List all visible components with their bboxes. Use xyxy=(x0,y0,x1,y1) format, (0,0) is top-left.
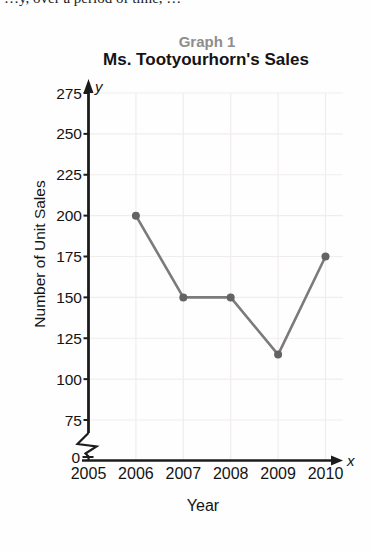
worksheet-page: …y, over a period of time, … Graph 1 Ms.… xyxy=(0,0,371,552)
x-tick-label: 2007 xyxy=(166,465,202,482)
data-point xyxy=(274,351,282,359)
y-tick-label: 250 xyxy=(56,125,82,142)
data-point xyxy=(132,212,140,220)
x-tick-label: 2008 xyxy=(213,465,249,482)
line-chart: 0751001251501752002252502752005200620072… xyxy=(0,0,371,552)
data-point xyxy=(227,293,235,301)
y-tick-label: 200 xyxy=(56,207,82,224)
x-axis-arrowhead xyxy=(331,456,343,466)
y-tick-label: 0 xyxy=(71,449,80,466)
x-axis-letter: x xyxy=(346,452,355,469)
y-tick-label: 225 xyxy=(56,166,82,183)
y-tick-label: 75 xyxy=(65,412,82,429)
y-tick-label: 150 xyxy=(56,289,82,306)
x-tick-label: 2010 xyxy=(308,465,344,482)
data-point xyxy=(179,293,187,301)
x-tick-label: 2005 xyxy=(71,465,107,482)
x-tick-label: 2009 xyxy=(260,465,296,482)
data-point xyxy=(322,253,330,261)
y-tick-label: 175 xyxy=(56,248,82,265)
x-tick-label: 2006 xyxy=(118,465,154,482)
y-tick-label: 100 xyxy=(56,371,82,388)
y-tick-label: 125 xyxy=(56,330,82,347)
y-tick-label: 275 xyxy=(56,85,82,102)
y-axis-arrowhead xyxy=(84,79,94,93)
